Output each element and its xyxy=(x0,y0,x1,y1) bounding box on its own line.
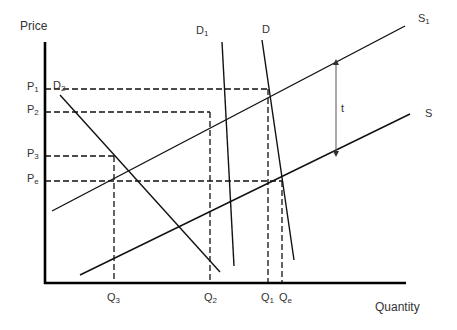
curve-label-d2: D2 xyxy=(53,80,65,93)
curve-label-d1: D1 xyxy=(196,25,208,38)
price-label-p1: P1 xyxy=(27,81,39,94)
price-label-p2: P2 xyxy=(27,104,39,117)
tax-label: t xyxy=(341,103,344,114)
x-axis-label: Quantity xyxy=(375,301,420,313)
demand-curve-d xyxy=(262,40,294,260)
price-label-p3: P3 xyxy=(27,148,39,161)
supply-demand-diagram xyxy=(0,0,457,330)
y-axis-label: Price xyxy=(20,20,47,32)
supply-curve-s1 xyxy=(52,26,405,211)
quantity-label-q2: Q2 xyxy=(204,292,217,305)
curve-label-s: S xyxy=(425,108,432,121)
quantity-label-q1: Q1 xyxy=(261,292,274,305)
quantity-label-qe: Qe xyxy=(279,292,292,305)
price-label-pe: Pe xyxy=(27,173,39,186)
quantity-label-q3: Q3 xyxy=(107,292,120,305)
curve-label-s1: S1 xyxy=(418,13,430,26)
supply-curve-s xyxy=(80,114,410,275)
curve-label-d: D xyxy=(262,24,270,37)
demand-curve-d1 xyxy=(222,42,234,266)
